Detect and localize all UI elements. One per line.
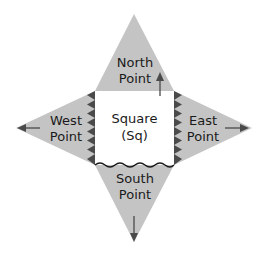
east-label-line2: Point [187, 129, 219, 144]
west-label-line1: West [50, 113, 82, 128]
compass-diagram: Square (Sq) North Point South Point West… [0, 0, 261, 255]
center-label-line1: Square [112, 111, 158, 126]
center-label-line2: (Sq) [121, 128, 148, 143]
south-label-line1: South [116, 171, 154, 186]
east-label-line1: East [189, 113, 217, 128]
south-label-line2: Point [119, 187, 151, 202]
west-label-line2: Point [50, 129, 82, 144]
north-label-line2: Point [119, 71, 151, 86]
north-label-line1: North [117, 55, 153, 70]
